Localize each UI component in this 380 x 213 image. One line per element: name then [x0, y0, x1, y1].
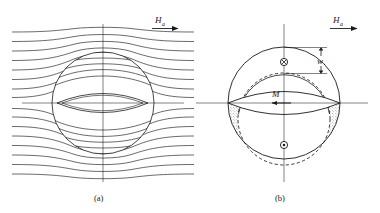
applied-field-label-b: H — [332, 15, 340, 25]
shaded-region-b — [220, 73, 350, 170]
panel-b: M w H a (b) — [196, 15, 368, 203]
current-out-marker-b — [280, 141, 287, 148]
current-in-marker-b — [280, 58, 287, 65]
magnetization-label-b: M — [271, 89, 280, 99]
figure-container: H a (a) — [0, 0, 380, 213]
applied-field-label-a: H — [154, 15, 162, 25]
shell-width-label-b: w — [317, 56, 323, 66]
applied-field-annotation-a: H a — [152, 15, 178, 29]
caption-b: (b) — [275, 193, 285, 203]
applied-field-sub-b: a — [340, 21, 343, 27]
physics-figure-svg: H a (a) — [0, 0, 380, 213]
caption-a: (a) — [94, 193, 104, 203]
applied-field-annotation-b: H a — [330, 15, 357, 29]
panel-a: H a (a) — [12, 15, 194, 203]
applied-field-sub-a: a — [162, 21, 165, 27]
